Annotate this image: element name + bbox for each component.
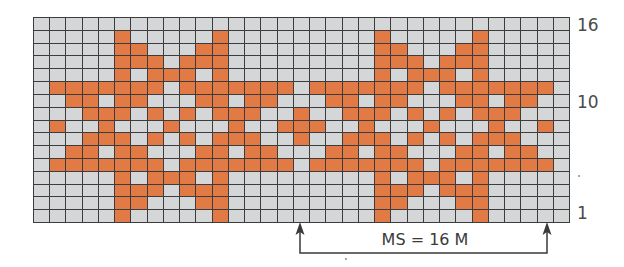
repeat-bracket — [0, 0, 624, 267]
repeat-label: MS = 16 M — [360, 230, 490, 249]
speck — [578, 175, 580, 177]
speck — [345, 258, 347, 260]
